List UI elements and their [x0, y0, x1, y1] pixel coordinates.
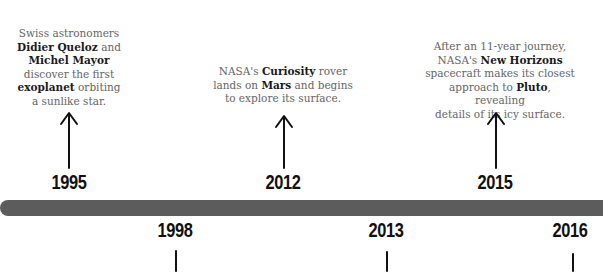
connector-line-1998 [175, 250, 177, 272]
year-label-2015: 2015 [462, 171, 528, 194]
connector-line-2016 [572, 253, 574, 272]
event-2012-description: NASA's Curiosity rover lands on Mars and… [213, 65, 353, 106]
arrow-up-icon [58, 110, 80, 170]
event-1995-description: Swiss astronomers Didier Queloz and Mich… [8, 27, 130, 108]
year-label-1998: 1998 [142, 219, 208, 242]
arrow-up-icon [273, 113, 295, 170]
arrow-up-icon [485, 110, 507, 170]
event-2015-description: After an 11-year journey, NASA's New Hor… [425, 40, 575, 121]
timeline-bar [0, 200, 603, 216]
year-label-2016: 2016 [537, 219, 603, 242]
year-label-2012: 2012 [250, 171, 316, 194]
year-label-1995: 1995 [36, 171, 102, 194]
year-label-2013: 2013 [353, 219, 419, 242]
connector-line-2013 [386, 251, 388, 272]
line: discover the first [24, 68, 114, 80]
